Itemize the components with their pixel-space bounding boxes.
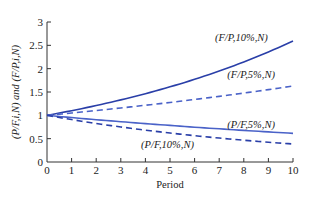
- x-tick-label: 4: [143, 164, 149, 176]
- x-tick-label: 9: [266, 164, 272, 176]
- curve-label: (F/P,10%,N): [215, 32, 268, 44]
- x-ticks: 012345678910: [44, 158, 299, 176]
- x-tick-label: 0: [44, 164, 50, 176]
- x-tick-label: 3: [118, 164, 124, 176]
- y-tick-label: 1.5: [29, 86, 43, 98]
- x-tick-label: 7: [216, 164, 222, 176]
- y-axis-title: (P/F,i,N) and (F/P,i,N): [10, 44, 22, 139]
- chart: 00.511.522.53 012345678910 (F/P,10%,N)(F…: [0, 0, 314, 201]
- curve-label: (P/F,10%,N): [141, 139, 194, 151]
- y-ticks: 00.511.522.53: [29, 16, 51, 168]
- x-tick-label: 1: [69, 164, 75, 176]
- y-tick-label: 0.5: [29, 133, 43, 145]
- curve-labels: (F/P,10%,N)(F/P,5%,N)(P/F,5%,N)(P/F,10%,…: [141, 32, 275, 151]
- curve-label: (P/F,5%,N): [227, 119, 275, 131]
- curve-label: (F/P,5%,N): [227, 69, 275, 81]
- x-tick-label: 8: [241, 164, 247, 176]
- x-axis-title: Period: [156, 179, 184, 190]
- y-tick-label: 2.5: [29, 39, 43, 51]
- x-tick-label: 10: [288, 164, 300, 176]
- x-tick-label: 5: [167, 164, 173, 176]
- series-line: [47, 86, 293, 115]
- y-tick-label: 2: [38, 63, 44, 75]
- x-tick-label: 6: [192, 164, 198, 176]
- y-tick-label: 1: [38, 109, 44, 121]
- y-tick-label: 0: [38, 156, 44, 168]
- x-tick-label: 2: [93, 164, 99, 176]
- y-tick-label: 3: [38, 16, 44, 28]
